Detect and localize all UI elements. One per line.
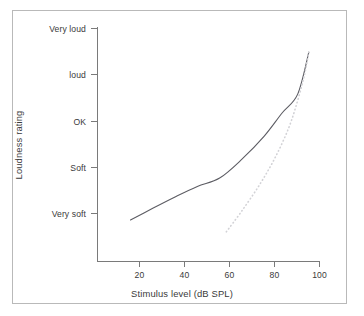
x-tick-label-40: 40 — [180, 270, 190, 280]
data-series-0 — [130, 52, 308, 220]
chart-plot-area — [0, 0, 364, 316]
y-tick-label-very-loud: Very loud — [10, 24, 86, 34]
x-tick-label-80: 80 — [270, 270, 280, 280]
x-axis-ticks — [140, 262, 320, 267]
x-axis-title: Stimulus level (dB SPL) — [0, 288, 364, 299]
x-tick-label-60: 60 — [225, 270, 235, 280]
x-tick-label-100: 100 — [312, 270, 327, 280]
y-tick-label-loud: loud — [10, 70, 86, 80]
figure-container: Very loud loud OK Soft Very soft 20 40 6… — [0, 0, 364, 316]
data-series-layer — [130, 52, 308, 232]
data-series-1 — [226, 52, 309, 232]
y-tick-label-very-soft: Very soft — [10, 209, 86, 219]
y-axis-ticks — [91, 29, 98, 214]
y-axis-title: Loudness rating — [13, 111, 24, 180]
x-tick-label-20: 20 — [135, 270, 145, 280]
